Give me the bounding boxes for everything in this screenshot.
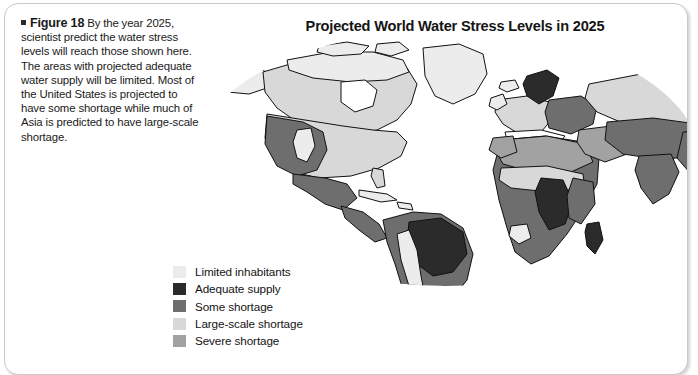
region-caribbean-cuba [359,190,397,202]
map-title: Projected World Water Stress Levels in 2… [227,18,683,34]
legend-label: Some shortage [195,300,273,313]
region-greenland [423,44,487,104]
legend-item-adequate-supply: Adequate supply [173,280,403,297]
legend-label: Limited inhabitants [195,265,291,278]
figure-label: Figure 18 [30,16,84,30]
legend-item-large-scale-shortage: Large-scale shortage [173,315,403,332]
figure-panel: Figure 18 By the year 2025, scientist pr… [4,3,688,375]
figure-caption-text: By the year 2025, scientist predict the … [21,17,198,143]
region-mexico [293,174,357,210]
region-india [635,154,679,204]
legend-swatch-icon [173,300,186,312]
legend-label: Severe shortage [195,334,279,347]
legend-item-some-shortage: Some shortage [173,298,403,315]
region-caribbean-hispaniola [397,202,413,210]
square-bullet-icon [21,20,26,25]
region-southern-south-america [423,286,449,306]
legend-swatch-icon [173,283,186,295]
legend-item-limited-inhabitants: Limited inhabitants [173,263,403,280]
legend-label: Large-scale shortage [195,317,303,330]
region-east-africa [567,178,595,224]
legend-swatch-icon [173,318,186,330]
legend-item-severe-shortage: Severe shortage [173,332,403,349]
region-florida [371,168,385,188]
map-legend: Limited inhabitants Adequate supply Some… [173,263,403,349]
region-central-america [341,206,387,242]
region-iceland [499,80,519,92]
region-arctic-island-1 [317,42,369,56]
region-madagascar [585,222,603,254]
legend-swatch-icon [173,335,186,347]
legend-label: Adequate supply [195,282,281,295]
figure-caption: Figure 18 By the year 2025, scientist pr… [21,16,203,144]
legend-swatch-icon [173,266,186,278]
